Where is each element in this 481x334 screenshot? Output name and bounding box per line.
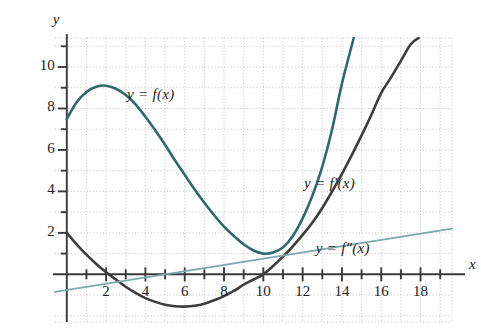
x-tick-label: 12 [285,283,321,300]
x-tick-label: 4 [127,283,163,300]
y-tick-label: 4 [19,181,55,198]
curve-series-0 [67,38,354,254]
curve-label-f: y = f(x) [127,86,175,103]
x-tick-label: 14 [324,283,360,300]
y-axis-label: y [53,11,60,28]
curve-label-f-double-prime: y = f″(x) [316,240,370,257]
x-tick-label: 6 [167,283,203,300]
x-tick-label: 8 [206,283,242,300]
curve-label-f-prime: y = f′(x) [304,175,355,192]
x-axis-label: x [469,256,476,273]
figure-container: y x 246810 24681012141618 y = f(x) y = f… [0,0,481,334]
curve-lines [55,38,452,307]
x-tick-label: 16 [363,283,399,300]
tick-marks [58,46,440,281]
x-tick-label: 2 [88,283,124,300]
x-tick-label: 10 [245,283,281,300]
curve-series-1 [67,38,419,307]
y-tick-label: 8 [19,98,55,115]
y-tick-label: 6 [19,140,55,157]
y-tick-label: 10 [19,57,55,74]
y-tick-label: 2 [19,223,55,240]
x-tick-label: 18 [403,283,439,300]
